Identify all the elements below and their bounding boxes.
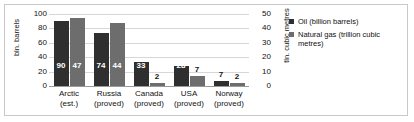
x-axis-baseline bbox=[49, 86, 249, 87]
bar-oil[interactable] bbox=[94, 33, 109, 86]
legend-item[interactable]: Natural gas (trillion cubic metres) bbox=[289, 30, 407, 48]
category-label-line: Canada bbox=[135, 89, 163, 98]
legend-item[interactable]: Oil (billion barrels) bbox=[289, 17, 407, 26]
x-axis-category-label: Russia(proved) bbox=[89, 89, 129, 109]
y-axis-right-tick: 10 bbox=[253, 68, 271, 76]
bar-gas[interactable] bbox=[70, 18, 85, 86]
bar-value-label-gas: 47 bbox=[70, 61, 85, 70]
bar-group: 9047 bbox=[49, 14, 89, 86]
category-label-line: (proved) bbox=[129, 99, 169, 109]
bar-gas[interactable] bbox=[230, 83, 245, 86]
y-axis-right-tick: 40 bbox=[253, 24, 271, 32]
x-axis-category-label: Canada(proved) bbox=[129, 89, 169, 109]
y-axis-left-tick: 60 bbox=[27, 39, 47, 47]
y-axis-right-ticks: 01020304050 bbox=[253, 14, 275, 86]
bar-value-label-gas: 2 bbox=[230, 72, 245, 81]
y-axis-left-tick: 40 bbox=[27, 53, 47, 61]
category-label-line: Russia bbox=[97, 89, 121, 98]
x-axis-category-label: Arctic(est.) bbox=[49, 89, 89, 109]
bar-value-label-gas: 44 bbox=[110, 61, 125, 70]
x-axis-category-labels: Arctic(est.)Russia(proved)Canada(proved)… bbox=[49, 89, 249, 113]
category-label-line: USA bbox=[181, 89, 197, 98]
y-axis-left-tick: 0 bbox=[27, 82, 47, 90]
bar-value-label-gas: 2 bbox=[150, 72, 165, 81]
bar-oil[interactable] bbox=[214, 81, 229, 86]
y-axis-right-tick: 50 bbox=[253, 10, 271, 18]
category-label-line: Arctic bbox=[59, 89, 79, 98]
legend-label: Oil (billion barrels) bbox=[298, 17, 358, 26]
chart-legend: Oil (billion barrels)Natural gas (trilli… bbox=[289, 17, 407, 52]
category-label-line: (proved) bbox=[209, 99, 249, 109]
bar-value-label-oil: 7 bbox=[214, 70, 229, 79]
bar-gas[interactable] bbox=[190, 76, 205, 86]
bar-value-label-oil: 28 bbox=[174, 61, 189, 70]
y-axis-left-tick: 80 bbox=[27, 24, 47, 32]
bar-value-label-oil: 90 bbox=[54, 61, 69, 70]
category-label-line: (est.) bbox=[49, 99, 89, 109]
bar-group: 287 bbox=[169, 14, 209, 86]
bar-gas[interactable] bbox=[110, 23, 125, 86]
category-label-line: (proved) bbox=[89, 99, 129, 109]
chart-frame: bln. barrels 020406080100 90477444332287… bbox=[4, 4, 408, 116]
bar-group: 72 bbox=[209, 14, 249, 86]
y-axis-left-ticks: 020406080100 bbox=[23, 14, 47, 86]
bar-value-label-gas: 7 bbox=[190, 65, 205, 74]
x-axis-category-label: Norway(proved) bbox=[209, 89, 249, 109]
bar-oil[interactable] bbox=[54, 21, 69, 86]
bar-value-label-oil: 74 bbox=[94, 61, 109, 70]
bar-gas[interactable] bbox=[150, 83, 165, 86]
legend-swatch-icon bbox=[289, 19, 294, 24]
y-axis-left-tick: 20 bbox=[27, 68, 47, 76]
category-label-line: (proved) bbox=[169, 99, 209, 109]
bar-group: 332 bbox=[129, 14, 169, 86]
plot-area: 9047744433228772 bbox=[49, 14, 249, 86]
bar-group: 7444 bbox=[89, 14, 129, 86]
x-axis-category-label: USA(proved) bbox=[169, 89, 209, 109]
y-axis-left-tick: 100 bbox=[27, 10, 47, 18]
y-axis-right-tick: 30 bbox=[253, 39, 271, 47]
legend-label: Natural gas (trillion cubic metres) bbox=[298, 30, 407, 48]
legend-swatch-icon bbox=[289, 32, 294, 37]
y-axis-right-tick: 20 bbox=[253, 53, 271, 61]
y-axis-right-tick: 0 bbox=[253, 82, 271, 90]
y-axis-left-title: bln. barrels bbox=[12, 9, 21, 67]
bar-value-label-oil: 33 bbox=[134, 61, 149, 70]
category-label-line: Norway bbox=[215, 89, 242, 98]
